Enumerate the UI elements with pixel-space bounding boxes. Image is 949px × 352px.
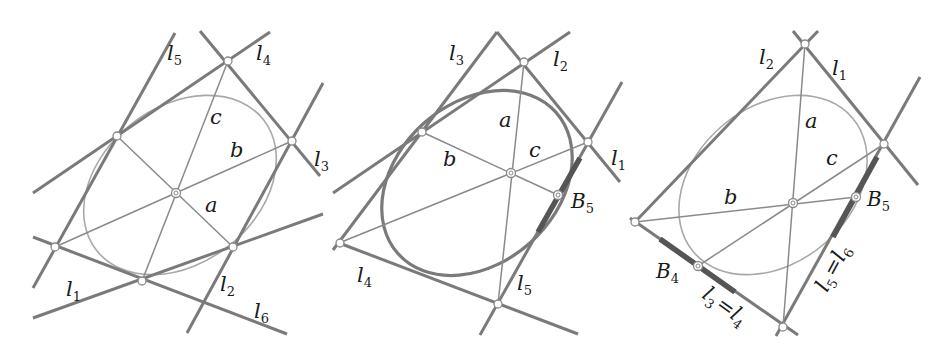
label-B5: B5	[570, 189, 594, 216]
diagonal-a	[783, 44, 805, 327]
vertex	[288, 137, 296, 145]
diagonal-c	[142, 61, 228, 281]
label-diagonal-c: c	[826, 146, 838, 170]
label-l4: l4	[256, 41, 271, 68]
label-diagonal-b: b	[724, 185, 737, 209]
point-B5	[554, 191, 563, 200]
label-diagonal-a: a	[805, 109, 818, 133]
vertex	[801, 40, 809, 48]
vertex	[584, 138, 592, 146]
label-diagonal-c: c	[529, 138, 541, 162]
label-l5: l5	[167, 41, 182, 68]
label-B4: B4	[655, 259, 679, 286]
point-B4	[694, 262, 703, 271]
label-B5: B5	[866, 187, 890, 214]
label-l2: l2	[553, 47, 568, 74]
label-diagonal-a: a	[499, 108, 512, 132]
label-diagonal-c: c	[210, 105, 222, 129]
panel-1: l5 l4 l3 l2 l1 l6 c b a	[33, 31, 329, 334]
label-l2: l2	[220, 272, 235, 299]
brianchon-point	[789, 199, 798, 208]
label-l4: l4	[357, 263, 372, 290]
label-l3: l3	[314, 147, 329, 174]
label-l1: l1	[832, 56, 847, 83]
label-l3-equals-l4: l3=l4	[696, 282, 752, 333]
diagonal-b	[635, 197, 856, 222]
tangent-line-l3	[333, 32, 497, 250]
vertex	[779, 323, 787, 331]
label-l6: l6	[254, 299, 269, 326]
label-diagonal-b: b	[443, 147, 456, 171]
vertex	[520, 58, 528, 66]
vertex	[880, 140, 888, 148]
vertex	[631, 218, 639, 226]
vertex	[229, 243, 237, 251]
label-l3: l3	[449, 41, 464, 68]
label-diagonal-b: b	[230, 138, 243, 162]
label-l1: l1	[611, 146, 626, 173]
brianchon-figure: l5 l4 l3 l2 l1 l6 c b a l3 l2 l1 l4 l5	[0, 0, 949, 352]
vertex	[138, 277, 146, 285]
vertex	[51, 243, 59, 251]
vertex	[224, 57, 232, 65]
label-diagonal-a: a	[205, 193, 218, 217]
vertex	[113, 132, 121, 140]
point-B5	[852, 193, 861, 202]
label-l1: l1	[66, 277, 81, 304]
diagonal-a	[498, 62, 524, 304]
label-l2: l2	[759, 45, 774, 72]
label-l5: l5	[517, 271, 532, 298]
brianchon-point	[507, 169, 516, 178]
vertex	[418, 128, 426, 136]
vertex	[494, 300, 502, 308]
vertex	[336, 239, 344, 247]
panel-3: l2 l1 a b c B5 B4 l3=l4 l5=l6	[630, 31, 920, 336]
brianchon-point	[172, 189, 181, 198]
tangent-line-l4	[339, 243, 578, 334]
panel-2: l3 l2 l1 l4 l5 a b c B5	[333, 32, 626, 335]
